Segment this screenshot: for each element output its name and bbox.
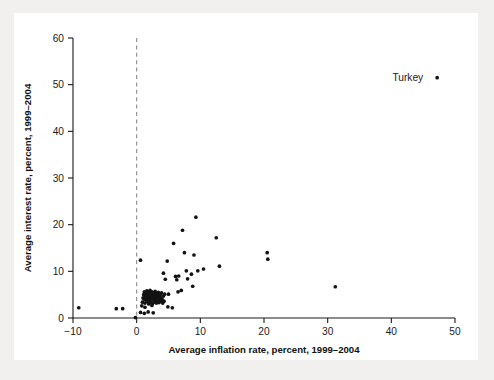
data-point [162,299,166,303]
turkey-annotation-marker [435,76,439,80]
data-point [143,305,147,309]
data-point [140,304,144,308]
x-tick-label: −10 [64,326,82,337]
y-tick-label: 40 [53,126,65,137]
data-point [121,307,125,311]
data-point [139,258,143,262]
data-point [162,271,166,275]
x-tick-label: 0 [134,326,140,337]
annotations-group: Turkey [392,72,439,83]
data-point [167,292,171,296]
x-tick-label: 30 [322,326,334,337]
y-axis-title: Average interest rate, percent, 1999–200… [22,83,33,272]
data-point [176,290,180,294]
data-point [165,259,169,263]
x-tick-label: 40 [386,326,398,337]
x-tick-label: 20 [258,326,270,337]
x-tick-label: 10 [195,326,207,337]
data-point [183,251,187,255]
scatter-plot-svg: −10010203040500102030405060 Turkey Avera… [14,13,478,360]
data-point [179,289,183,293]
data-point [77,306,81,310]
data-point [333,285,337,289]
data-point [151,311,155,315]
data-point [142,311,146,315]
data-point [266,257,270,261]
y-tick-label: 10 [53,266,65,277]
data-point [190,272,194,276]
y-tick-label: 50 [53,79,65,90]
data-point [191,284,195,288]
y-tick-label: 0 [58,313,64,324]
data-point [265,251,269,255]
data-point [170,306,174,310]
data-point [175,278,179,282]
y-tick-label: 20 [53,219,65,230]
data-point [146,310,150,314]
data-points-group [77,215,337,319]
data-point [196,269,200,273]
data-point [177,274,181,278]
figure-root: −10010203040500102030405060 Turkey Avera… [0,0,494,380]
data-point [202,267,206,271]
data-point [160,291,164,295]
data-point [192,253,196,257]
data-point [139,311,143,315]
y-tick-label: 60 [53,33,65,44]
x-tick-label: 50 [449,326,461,337]
data-point [184,269,188,273]
data-point [174,275,178,279]
data-point [163,277,167,281]
data-point [186,277,190,281]
chart-canvas: −10010203040500102030405060 Turkey Avera… [14,13,478,360]
data-point [194,215,198,219]
y-tick-label: 30 [53,173,65,184]
data-point [134,316,138,320]
data-point [163,292,167,296]
data-point [181,228,185,232]
data-point [172,241,176,245]
data-point [214,236,218,240]
data-point [218,264,222,268]
data-point [114,307,118,311]
x-axis-title: Average inflation rate, percent, 1999–20… [168,344,360,355]
data-point [166,305,170,309]
turkey-annotation-label: Turkey [392,72,424,83]
